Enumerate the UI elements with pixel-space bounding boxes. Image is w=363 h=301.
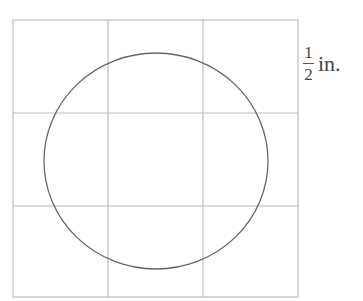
fraction-denominator: 2 (304, 66, 313, 83)
circle-shape (44, 53, 268, 269)
fraction: 1 2 (303, 44, 314, 83)
scale-label: 1 2 in. (303, 44, 341, 83)
fraction-numerator: 1 (304, 44, 313, 61)
grid (13, 20, 298, 297)
fraction-bar (303, 63, 314, 64)
grid-border (13, 20, 298, 297)
unit-label: in. (318, 51, 341, 77)
